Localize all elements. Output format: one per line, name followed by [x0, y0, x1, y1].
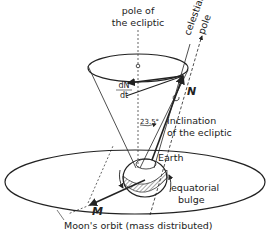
precession-diagram: pole of the ecliptic celestial pole dN d… [0, 0, 276, 235]
dn-dt-vector [126, 76, 183, 96]
label-bulge-2: bulge [178, 194, 205, 205]
label-inclination-1: inclination [167, 115, 216, 126]
label-n: N [187, 85, 196, 98]
label-bulge-1: equatorial [171, 182, 219, 193]
label-moon-orbit: Moon's orbit (mass distributed) [64, 220, 213, 231]
m-vector [68, 146, 145, 214]
ecliptic-pole-axis [136, 30, 140, 170]
moon-orbit-leader [57, 210, 64, 220]
label-angle: 23.5° [140, 118, 159, 126]
label-dt: dt [120, 91, 128, 100]
moon-orbit-ellipse [5, 150, 265, 214]
label-inclination-2: of the ecliptic [167, 127, 232, 138]
earth-globe [119, 159, 170, 197]
label-earth: Earth [158, 152, 183, 163]
label-m: M [92, 205, 103, 218]
label-dn: dN [118, 81, 129, 90]
label-pole-ecliptic-1: pole of [122, 5, 155, 16]
label-pole-ecliptic-2: the ecliptic [112, 17, 165, 28]
